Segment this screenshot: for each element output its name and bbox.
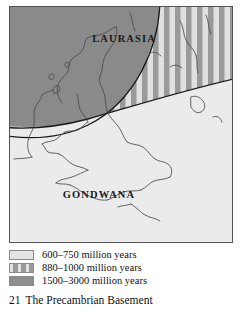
caption-number: 21 <box>9 294 21 306</box>
legend-item: 1500–3000 million years <box>9 274 233 287</box>
caption-title: The Precambrian Basement <box>26 294 153 306</box>
legend-swatch-600-750ma <box>9 250 34 260</box>
legend-item: 600–750 million years <box>9 248 233 261</box>
figure-precambrian-basement: LAURASIA GONDWANA 600–750 million years … <box>0 0 242 315</box>
map-graphic <box>10 7 232 242</box>
legend-label-600-750ma: 600–750 million years <box>42 248 137 261</box>
legend-label-1500-3000ma: 1500–3000 million years <box>42 274 147 287</box>
figure-caption: 21The Precambrian Basement <box>9 294 239 306</box>
legend-swatch-880-1000ma <box>9 263 34 273</box>
map-frame: LAURASIA GONDWANA <box>9 6 233 243</box>
legend-item: 880–1000 million years <box>9 261 233 274</box>
legend: 600–750 million years 880–1000 million y… <box>9 248 233 287</box>
legend-swatch-1500-3000ma <box>9 276 34 286</box>
legend-label-880-1000ma: 880–1000 million years <box>42 261 142 274</box>
